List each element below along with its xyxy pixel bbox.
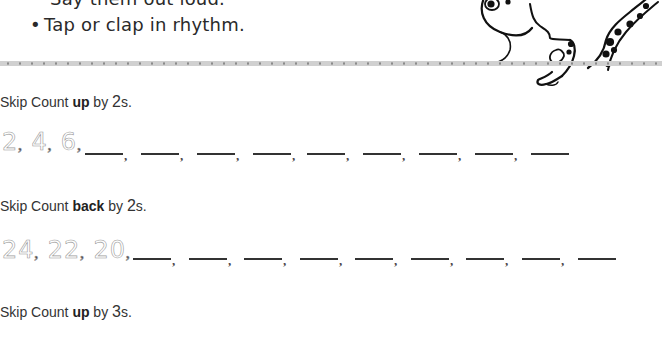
exercise-3-instruction: Skip Count up by 3s. <box>0 303 132 321</box>
answer-blank[interactable] <box>133 258 171 260</box>
exercise-2-answer-blanks: , , , , , , , , <box>0 0 662 340</box>
answer-blank[interactable] <box>189 258 227 260</box>
answer-blank[interactable] <box>411 258 449 260</box>
answer-blank[interactable] <box>355 258 393 260</box>
answer-blank[interactable] <box>466 258 504 260</box>
answer-blank[interactable] <box>522 258 560 260</box>
answer-blank[interactable] <box>578 258 616 260</box>
answer-blank[interactable] <box>244 258 282 260</box>
answer-blank[interactable] <box>300 258 338 260</box>
direction-keyword: up <box>72 304 89 320</box>
